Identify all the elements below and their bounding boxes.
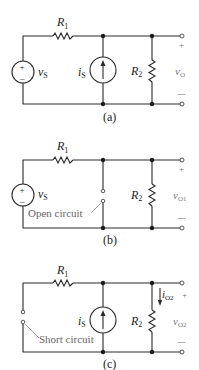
output-terminal	[180, 158, 184, 162]
node-dot	[101, 158, 105, 162]
open-circuit-label: Open circuit	[28, 207, 83, 219]
output-terminal	[180, 102, 184, 106]
node-dot	[101, 34, 105, 38]
node-dot	[150, 158, 154, 162]
plus-sign: +	[179, 164, 184, 174]
output-terminal	[180, 281, 184, 285]
caption-b: (b)	[103, 233, 117, 247]
short-circuit-terminal	[21, 320, 25, 324]
svg-text:–: –	[19, 196, 25, 206]
svg-text:+: +	[20, 185, 25, 195]
resistor-r2-icon	[149, 60, 155, 82]
open-circuit-terminal	[101, 199, 105, 203]
node-dot	[101, 226, 105, 230]
output-terminal	[180, 226, 184, 230]
minus-sign: —	[177, 213, 187, 222]
svg-text:R2: R2	[130, 64, 142, 79]
panel-a: R1 + – vS iS R2 + — vO (a)	[12, 15, 187, 124]
output-terminal	[180, 34, 184, 38]
resistor-r1-icon	[53, 280, 73, 286]
resistor-r1-icon	[53, 33, 73, 39]
node-dot	[101, 350, 105, 354]
minus-sign: —	[177, 89, 187, 98]
panel-c: R1 Short circuit iS R2 iO2 + — vO2 (c)	[21, 263, 187, 370]
plus-sign: +	[182, 290, 187, 300]
svg-text:R1: R1	[56, 263, 68, 279]
node-dot	[150, 226, 154, 230]
svg-text:R2: R2	[130, 314, 142, 329]
resistor-r2-icon	[149, 184, 155, 206]
svg-text:+: +	[20, 62, 25, 72]
svg-text:R2: R2	[130, 188, 142, 203]
annotation-leader-line	[25, 324, 39, 338]
svg-text:R1: R1	[56, 15, 68, 31]
wire	[23, 36, 53, 61]
node-dot	[101, 281, 105, 285]
node-dot	[150, 102, 154, 106]
svg-text:vO2: vO2	[173, 315, 187, 329]
node-dot	[150, 34, 154, 38]
svg-text:vO: vO	[175, 65, 185, 79]
output-terminal	[180, 350, 184, 354]
caption-a: (a)	[103, 110, 116, 124]
node-dot	[150, 281, 154, 285]
resistor-r2-icon	[149, 310, 155, 332]
svg-text:iO2: iO2	[162, 288, 174, 302]
short-circuit-terminal	[21, 310, 25, 314]
wire	[23, 160, 53, 184]
svg-text:iS: iS	[78, 314, 86, 329]
circuit-figure: R1 + – vS iS R2 + — vO (a) R1	[0, 0, 199, 370]
wire	[23, 283, 53, 310]
svg-text:vS: vS	[38, 65, 48, 80]
svg-text:iS: iS	[78, 65, 86, 80]
plus-sign: +	[179, 40, 184, 50]
svg-text:R1: R1	[56, 139, 68, 155]
panel-b: R1 + – vS Open circuit R2 + — vO1 (b)	[12, 139, 187, 247]
node-dot	[101, 102, 105, 106]
resistor-r1-icon	[53, 157, 73, 163]
node-dot	[150, 350, 154, 354]
caption-c: (c)	[103, 357, 116, 370]
short-circuit-label: Short circuit	[39, 333, 94, 345]
open-circuit-terminal	[101, 189, 105, 193]
annotation-leader-line	[91, 203, 101, 213]
svg-text:vO1: vO1	[173, 189, 187, 203]
svg-text:–: –	[19, 73, 25, 83]
svg-text:vS: vS	[38, 187, 48, 202]
minus-sign: —	[177, 337, 187, 346]
